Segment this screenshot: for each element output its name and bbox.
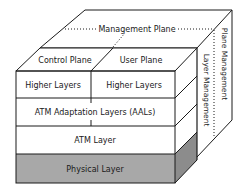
management-plane-label: Management Plane [98,25,175,34]
side-diag-2 [175,104,197,126]
higher-layers-right-label: Higher Layers [106,81,162,90]
physical-layer-label: Physical Layer [66,165,124,174]
user-plane-label: User Plane [120,56,163,65]
control-plane-label: Control Plane [38,56,91,65]
physical-layer-side [175,132,197,183]
atm-layer-label: ATM Layer [74,136,116,145]
layer-management-label: Layer Management [202,54,211,127]
aal-layer-label: ATM Adaptation Layers (AALs) [35,108,156,117]
higher-layers-left-label: Higher Layers [25,81,81,90]
atm-model-diagram: Management Plane Control Plane User Plan… [0,0,243,196]
plane-management-label: Plane Management [220,28,229,100]
side-diag-1 [175,76,197,98]
